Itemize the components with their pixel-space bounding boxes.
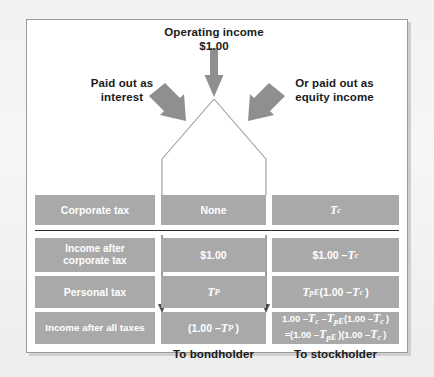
to-stockholder-label: To stockholder bbox=[272, 348, 399, 362]
row-corporate-tax-equity-value: Tc bbox=[272, 195, 399, 225]
operating-income-arrow bbox=[205, 48, 224, 97]
row-income-after-corporate-tax-label: Income after corporate tax bbox=[35, 238, 155, 272]
diagram-page: Operating income $1.00 Paid out as inter… bbox=[0, 0, 434, 377]
paid-out-as-equity-label: Or paid out as equity income bbox=[272, 77, 397, 104]
operating-income-title: Operating income $1.00 bbox=[134, 26, 294, 53]
row-personal-tax-equity-value: TpE(1.00 –Tc ) bbox=[272, 276, 399, 308]
operating-income-amount: $1.00 bbox=[199, 40, 228, 52]
operating-income-label: Operating income bbox=[164, 26, 263, 38]
section-divider bbox=[35, 230, 399, 231]
branch-right-line2: equity income bbox=[295, 91, 374, 103]
branch-right-line1: Or paid out as bbox=[295, 77, 374, 89]
label-line-1: Income after bbox=[65, 243, 124, 256]
branch-left-line2: interest bbox=[101, 91, 143, 103]
to-bondholder-label: To bondholder bbox=[161, 348, 266, 362]
diagram-frame: Operating income $1.00 Paid out as inter… bbox=[26, 19, 408, 353]
branch-left-line1: Paid out as bbox=[91, 77, 153, 89]
row-income-after-all-taxes-equity-value: 1.00 –Tc –TpE(1.00 –Tc ) =(1.00 –TpE )(1… bbox=[272, 312, 399, 344]
split-lines bbox=[162, 99, 266, 195]
label-line-2: corporate tax bbox=[63, 255, 126, 268]
row-personal-tax-debt-value: TP bbox=[161, 276, 266, 308]
row-income-after-all-taxes-debt-value: (1.00 –TP ) bbox=[161, 312, 266, 344]
row-income-after-corporate-tax-debt-value: $1.00 bbox=[161, 238, 266, 272]
row-corporate-tax-label: Corporate tax bbox=[35, 195, 155, 225]
equity-formula-line2: =(1.00 –TpE )(1.00 –Tc ) bbox=[285, 328, 387, 344]
row-income-after-all-taxes-label: Income after all taxes bbox=[35, 312, 155, 344]
equity-formula-line1: 1.00 –Tc –TpE(1.00 –Tc ) bbox=[282, 312, 389, 328]
row-corporate-tax-debt-value: None bbox=[161, 195, 266, 225]
paid-out-as-interest-label: Paid out as interest bbox=[67, 77, 177, 104]
row-income-after-corporate-tax-equity-value: $1.00 –Tc bbox=[272, 238, 399, 272]
row-personal-tax-label: Personal tax bbox=[35, 276, 155, 308]
